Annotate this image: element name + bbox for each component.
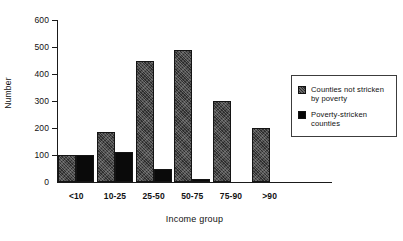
plot-area (57, 20, 289, 182)
x-tick-label-75-90: 75-90 (212, 192, 251, 201)
x-tick-label-10-25: 10-25 (96, 192, 135, 201)
y-tick-label-300: 300 (35, 97, 49, 106)
bar-poverty-stricken-10-25 (115, 152, 133, 183)
legend: Counties not stricken by poverty Poverty… (291, 75, 397, 137)
y-axis-title: Number (3, 63, 13, 123)
y-tick-label-600: 600 (35, 16, 49, 25)
legend-label-1: Poverty-stricken counties (311, 110, 367, 129)
bar-poverty-stricken-50-75 (192, 179, 210, 182)
bar-counties-not-stricken->90 (252, 128, 270, 182)
x-axis-line (57, 182, 332, 183)
y-tick-label-500: 500 (35, 43, 49, 52)
bar-chart-figure: 600 500 400 300 200 100 0 Number <1010-2… (0, 0, 403, 241)
y-tick-label-200: 200 (35, 124, 49, 133)
legend-swatch-gray-hatched-icon (298, 86, 306, 94)
x-axis-title: Income group (57, 214, 332, 224)
bar-poverty-stricken-25-50 (154, 169, 172, 183)
bar-poverty-stricken-<10 (76, 155, 94, 182)
x-axis-tick-labels: <1010-2525-5050-7575-90>90 (57, 192, 289, 206)
x-tick-label-<10: <10 (57, 192, 96, 201)
legend-item-poverty-stricken: Poverty-stricken counties (298, 110, 367, 129)
bar-series-container (57, 20, 289, 182)
y-tick-label-400: 400 (35, 70, 49, 79)
x-tick-label-50-75: 50-75 (173, 192, 212, 201)
bar-counties-not-stricken-75-90 (213, 101, 231, 182)
legend-swatch-black-icon (298, 111, 306, 119)
y-tick-label-0: 0 (44, 178, 49, 187)
y-tick-label-100: 100 (35, 151, 49, 160)
bar-counties-not-stricken-10-25 (97, 132, 115, 182)
bar-counties-not-stricken-25-50 (136, 61, 154, 183)
legend-label-0: Counties not stricken by poverty (311, 85, 384, 104)
legend-item-counties-not-stricken: Counties not stricken by poverty (298, 85, 384, 104)
bar-counties-not-stricken-<10 (58, 155, 76, 182)
bar-counties-not-stricken-50-75 (174, 50, 192, 182)
x-tick-label-25-50: 25-50 (134, 192, 173, 201)
x-tick-label->90: >90 (250, 192, 289, 201)
